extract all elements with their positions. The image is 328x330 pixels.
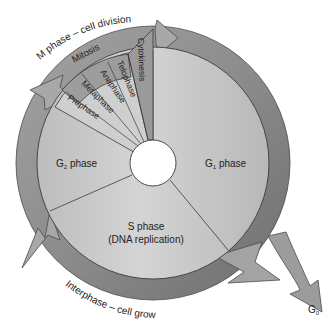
center-hub — [130, 140, 176, 186]
g1-phase-label: G1 phase — [205, 158, 247, 170]
s-phase-sublabel: (DNA replication) — [108, 234, 184, 245]
cytokinesis-label: Cytokinesis — [136, 38, 148, 82]
cell-cycle-diagram: M phase – cell division Interphase – cel… — [0, 0, 328, 330]
s-phase-label: S phase — [128, 221, 165, 232]
g0-arrow — [268, 232, 322, 312]
g2-phase-label: G2 phase — [56, 158, 98, 170]
